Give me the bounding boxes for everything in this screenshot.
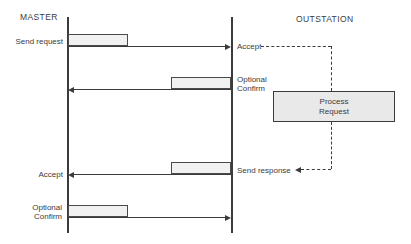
arrow-right-icon [225,44,231,50]
confirm-label-left: Confirm [18,212,62,221]
accept-to-process-dashed-h [261,46,331,47]
send-request-bar [68,34,128,46]
master-title: MASTER [20,13,58,22]
accept-to-process-dashed-v [331,46,332,91]
send-response-arrow-line [74,174,231,175]
optional-label-right: Optional [237,75,267,84]
master-timeline [67,17,69,233]
confirm-label-right: Confirm [237,84,265,93]
optional-confirm-right-arrow-line [74,89,231,90]
optional-confirm-right-bar [171,77,231,89]
outstation-timeline [231,17,233,233]
optional-label-left: Optional [18,203,62,212]
process-to-response-dashed-h [301,169,331,170]
send-response-label: Send response [237,166,291,175]
optional-confirm-left-arrow-line [68,217,225,218]
process-request-box: Process Request [273,91,395,122]
send-request-label: Send request [2,37,63,46]
optional-confirm-left-bar [68,205,128,217]
process-to-response-dashed-v [331,122,332,169]
accept-bottom-label: Accept [20,170,63,179]
arrow-right-icon [225,215,231,221]
send-response-bar [171,162,231,174]
arrow-left-icon [295,167,301,173]
send-request-arrow-line [68,46,225,47]
process-request-line1: Process [320,97,349,107]
outstation-title: OUTSTATION [296,15,354,24]
process-request-line2: Request [319,107,349,117]
sequence-diagram: MASTER OUTSTATION Send request Accept Op… [0,0,411,244]
accept-top-label: Accept [237,42,261,51]
